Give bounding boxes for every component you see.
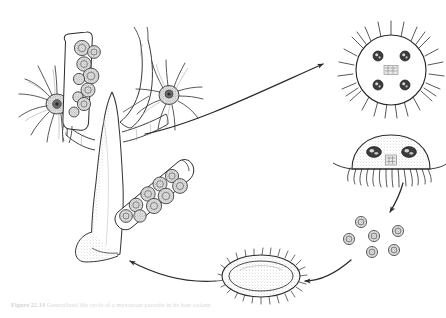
sporangium-central-body <box>384 66 398 75</box>
figure-caption-text: Generalized life cycle of a myxozoan par… <box>47 301 212 308</box>
figure-root: Figure 22.14 Generalized life cycle of a… <box>0 0 446 318</box>
free-spore <box>355 216 366 227</box>
ciliated-cell-central-body <box>386 155 397 165</box>
free-spore <box>366 246 377 257</box>
free-spore <box>392 225 403 236</box>
free-spore <box>368 230 379 241</box>
figure-caption: Figure 22.14 Generalized life cycle of a… <box>11 301 431 308</box>
free-spore <box>343 233 354 244</box>
life-cycle-diagram <box>0 0 446 318</box>
figure-caption-label: Figure 22.14 <box>11 301 45 308</box>
free-spore <box>388 244 399 255</box>
